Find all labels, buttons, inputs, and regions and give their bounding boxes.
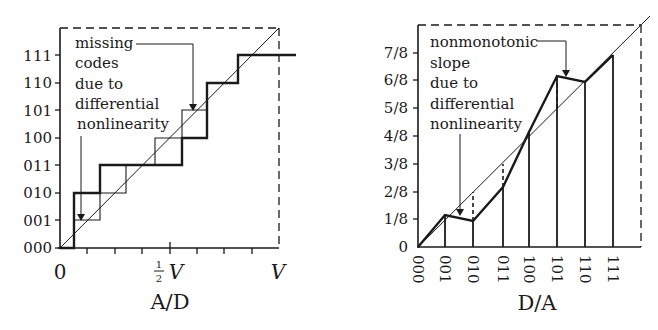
ad-y-label: 100 [23, 129, 52, 147]
da-x-label: 101 [548, 255, 566, 284]
da-x-labels: 000 001 010 011 100 101 110 111 [409, 255, 622, 284]
da-annotation-line: due to [430, 74, 478, 92]
arrowhead-icon [562, 70, 570, 77]
da-x-label: 011 [494, 255, 512, 284]
ad-x-label-full-v: V [271, 260, 288, 284]
ad-y-label: 110 [23, 74, 52, 92]
ad-y-labels: 000 001 010 011 100 101 110 111 [23, 47, 52, 257]
da-plot-title: D/A [517, 291, 557, 315]
da-annotation: nonmonotonic slope due to differential n… [430, 33, 538, 133]
da-y-labels: 0 1/8 2/8 3/8 4/8 5/8 6/8 7/8 [384, 44, 408, 256]
da-x-label: 111 [604, 255, 622, 284]
ad-annotation-line: differential [75, 95, 159, 113]
ad-x-label-half-numerator: 1 [156, 259, 162, 270]
da-annotation-arrow-right [537, 41, 566, 72]
ad-y-label: 000 [23, 239, 52, 257]
da-y-label: 1/8 [384, 210, 408, 228]
da-annotation-line: nonmonotonic [430, 33, 538, 51]
ad-x-labels: 0 1 2 V V [54, 259, 288, 284]
ad-y-label: 010 [23, 184, 52, 202]
ad-y-label: 101 [23, 102, 52, 120]
da-y-label: 3/8 [384, 155, 408, 173]
da-annotation-line: nonlinearity [430, 115, 522, 133]
da-x-label: 110 [576, 255, 594, 284]
da-x-label: 100 [520, 255, 538, 284]
ad-annotation-line: missing [75, 34, 134, 52]
da-y-label: 4/8 [384, 127, 408, 145]
ad-annotation-line: due to [75, 75, 123, 93]
ad-y-label: 111 [23, 47, 52, 65]
ad-x-label-zero: 0 [54, 260, 67, 284]
ad-y-label: 001 [23, 212, 52, 230]
da-x-label: 001 [436, 255, 454, 284]
da-y-label: 2/8 [384, 183, 408, 201]
ad-annotation-line: nonlinearity [77, 115, 169, 133]
arrowhead-icon [456, 209, 464, 216]
figure-canvas: 000 001 010 011 100 101 110 111 0 1 2 V … [0, 0, 658, 330]
da-annotation-line: slope [430, 54, 470, 72]
ad-y-label: 011 [23, 157, 52, 175]
ad-x-label-half-v: V [169, 260, 186, 284]
ad-annotation-line: codes [75, 54, 119, 72]
ad-annotation: missing codes due to differential nonlin… [75, 34, 169, 133]
da-x-label: 000 [409, 255, 427, 284]
da-x-label: 010 [464, 255, 482, 284]
da-annotation-line: differential [430, 95, 514, 113]
da-y-label: 7/8 [384, 44, 408, 62]
ad-x-label-half-denominator: 2 [156, 273, 162, 284]
da-y-label: 5/8 [384, 99, 408, 117]
da-y-label: 0 [398, 238, 408, 256]
da-y-label: 6/8 [384, 71, 408, 89]
ad-plot-title: A/D [149, 290, 189, 314]
